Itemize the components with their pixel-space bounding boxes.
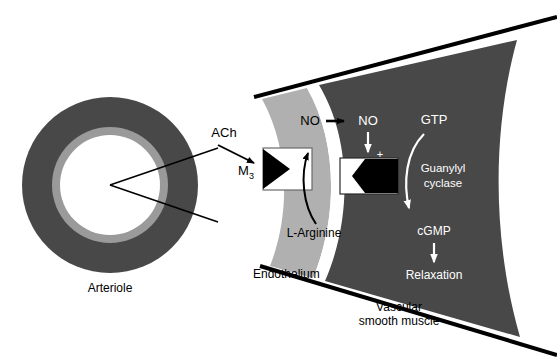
l-arginine-label: L-Arginine [287, 226, 342, 240]
arteriole-caption: Arteriole [88, 281, 133, 295]
ach-label: ACh [211, 125, 236, 140]
no-endothelial-label: NO [300, 113, 320, 128]
guanylyl-cyclase-label-line2: cyclase [424, 177, 462, 189]
relaxation-label: Relaxation [406, 268, 463, 282]
smooth-muscle-caption-line1: Vascular [376, 300, 422, 314]
figure-canvas: Arteriole ACh M3 L-Arginine NO NO + [0, 0, 557, 362]
smooth-muscle-caption-line2: smooth muscle [359, 314, 440, 328]
guanylyl-cyclase-enzyme [340, 158, 398, 194]
no-muscle-label: NO [358, 113, 378, 128]
guanylyl-cyclase-label-line1: Guanylyl [421, 162, 466, 174]
diagram-svg: Arteriole ACh M3 L-Arginine NO NO + [0, 0, 557, 362]
cgmp-label: cGMP [417, 224, 450, 238]
endothelium-caption: Endothelium [253, 267, 320, 281]
gtp-label: GTP [421, 112, 448, 127]
